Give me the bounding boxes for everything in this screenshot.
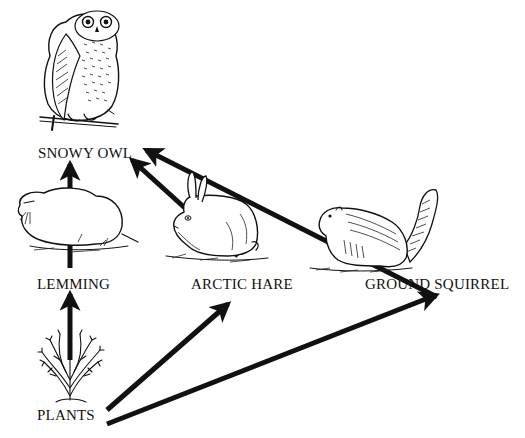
- plant-illustration-icon: [0, 0, 525, 438]
- label-lemming: LEMMING: [37, 277, 110, 292]
- label-ground-squirrel: GROUND SQUIRREL: [365, 277, 509, 292]
- label-snowy-owl: SNOWY OWL: [38, 146, 132, 161]
- food-web-diagram: SNOWY OWL LEMMING ARCTIC HARE GROUND SQU…: [0, 0, 525, 438]
- label-plants: PLANTS: [37, 408, 95, 423]
- label-arctic-hare: ARCTIC HARE: [191, 277, 293, 292]
